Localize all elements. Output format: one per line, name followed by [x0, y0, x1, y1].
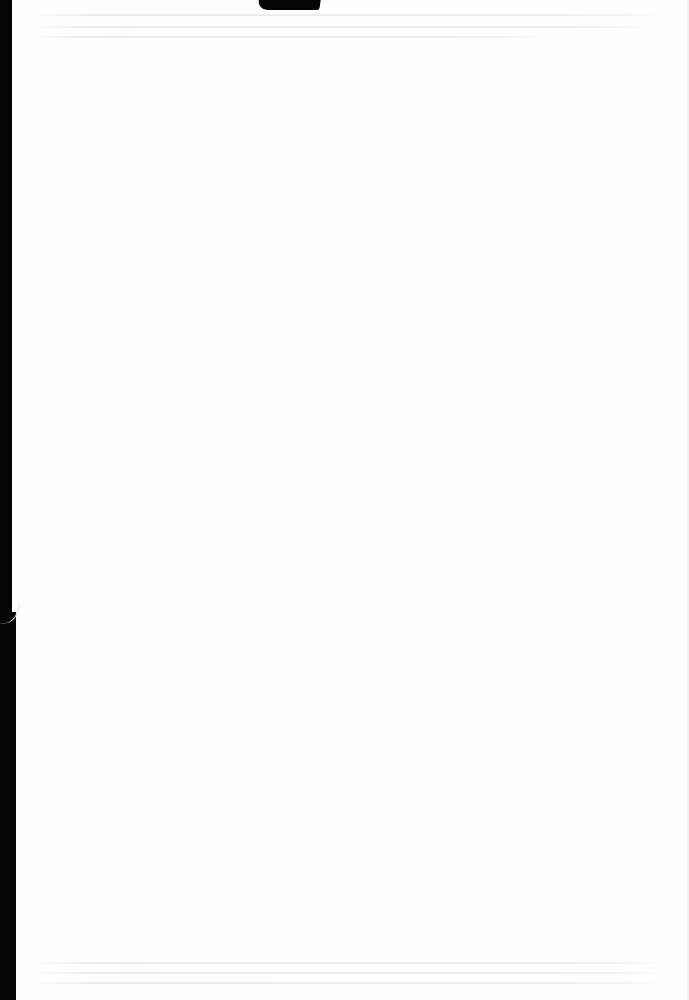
bleed-through-line: [30, 14, 670, 16]
bleed-through-line: [30, 972, 670, 974]
paper-surface: [12, 0, 689, 1000]
bleed-through-line: [30, 982, 670, 984]
bleed-through-line: [30, 962, 670, 964]
scanner-left-edge-lower: [0, 612, 16, 1000]
bleed-through-line: [30, 36, 550, 38]
scanner-top-tab: [257, 0, 320, 10]
scanned-page: [0, 0, 689, 1000]
bleed-through-line: [28, 26, 658, 28]
